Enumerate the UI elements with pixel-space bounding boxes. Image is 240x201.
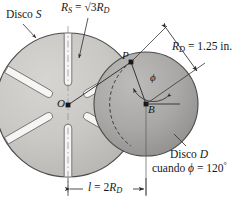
- label-disco-d-letter: D: [200, 148, 208, 160]
- label-l-equals: = 2: [91, 181, 109, 193]
- label-cuando-word: cuando: [152, 162, 188, 174]
- label-l-dimension: l = 2RD: [88, 181, 122, 196]
- label-disco-d-word: Disco: [170, 148, 197, 160]
- label-cuando-value: = 120: [194, 162, 224, 174]
- label-l-rd-subscript: D: [116, 186, 122, 195]
- label-cuando-phi: cuando ϕ = 120°: [152, 162, 227, 174]
- label-point-p: P: [122, 50, 129, 62]
- label-rs-sqrt3: √3: [84, 1, 96, 13]
- label-phi-angle: ϕ: [150, 72, 156, 84]
- label-point-b: B: [148, 104, 155, 116]
- label-disco-s: Disco S: [6, 8, 41, 20]
- label-rd: RD = 1.25 in.: [172, 40, 232, 55]
- label-disco-s-word: Disco: [6, 8, 33, 20]
- label-rs-equals: =: [72, 1, 84, 13]
- label-rs-symbol: R: [61, 1, 68, 13]
- leader-disco-s: [23, 24, 36, 38]
- label-cuando-degree: °: [224, 161, 227, 170]
- label-rd-symbol: R: [172, 40, 179, 52]
- label-disco-s-letter: S: [36, 8, 42, 20]
- label-rd-value: = 1.25 in.: [185, 40, 232, 52]
- label-rs: RS = √3RD: [61, 1, 110, 16]
- label-disco-d: Disco D: [170, 148, 208, 160]
- label-point-o: O: [57, 98, 65, 110]
- point-marker-o: [66, 103, 71, 108]
- label-rs-rd-subscript: D: [104, 6, 110, 15]
- label-rs-rd-symbol: R: [96, 1, 103, 13]
